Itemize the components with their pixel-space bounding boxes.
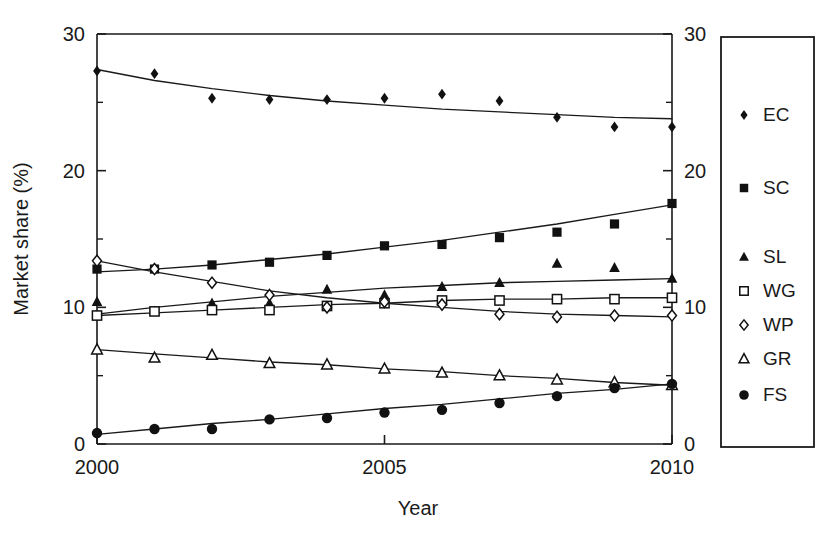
- legend-label: GR: [763, 348, 792, 369]
- data-point-sc: [322, 251, 331, 260]
- y-tick-label-right: 20: [684, 160, 706, 182]
- y-tick-label-right: 0: [684, 433, 695, 455]
- data-point-fs: [207, 424, 217, 434]
- x-tick-label: 2005: [362, 456, 407, 478]
- x-tick-label: 2000: [75, 456, 120, 478]
- data-point-sc: [380, 241, 389, 250]
- legend-label: WG: [763, 280, 796, 301]
- data-point-fs: [609, 383, 619, 393]
- x-tick-label: 2010: [650, 456, 695, 478]
- data-point-fs: [552, 391, 562, 401]
- chart-background: [0, 0, 835, 535]
- data-point-sc: [667, 199, 676, 208]
- data-point-fs: [322, 413, 332, 423]
- legend-marker-filled-circle-icon: [739, 390, 749, 400]
- data-point-fs: [379, 407, 389, 417]
- data-point-wg: [495, 296, 504, 305]
- data-point-fs: [149, 424, 159, 434]
- data-point-sc: [265, 258, 274, 267]
- data-point-sc: [495, 233, 504, 242]
- legend-label: SC: [763, 177, 789, 198]
- y-tick-label-left: 20: [63, 160, 85, 182]
- data-point-wg: [265, 305, 274, 314]
- data-point-sc: [437, 240, 446, 249]
- chart-figure: 0102030 0102030 200020052010 Year Market…: [0, 0, 835, 535]
- legend-label: EC: [763, 104, 789, 125]
- y-tick-label-right: 30: [684, 23, 706, 45]
- y-tick-label-left: 0: [74, 433, 85, 455]
- legend-label: FS: [763, 384, 787, 405]
- data-point-wg: [552, 295, 561, 304]
- data-point-sc: [552, 228, 561, 237]
- data-point-wg: [207, 305, 216, 314]
- legend-label: WP: [763, 314, 794, 335]
- x-axis-title: Year: [398, 497, 439, 519]
- data-point-wg: [92, 311, 101, 320]
- data-point-fs: [264, 414, 274, 424]
- market-share-line-chart: 0102030 0102030 200020052010 Year Market…: [0, 0, 835, 535]
- data-point-wg: [150, 307, 159, 316]
- data-point-fs: [437, 405, 447, 415]
- y-tick-label-right: 10: [684, 296, 706, 318]
- data-point-fs: [494, 398, 504, 408]
- data-point-sc: [610, 219, 619, 228]
- legend-label: SL: [763, 246, 786, 267]
- legend-marker-filled-square-icon: [740, 184, 748, 192]
- data-point-fs: [92, 428, 102, 438]
- y-axis-title: Market share (%): [10, 162, 32, 315]
- data-point-wg: [667, 293, 676, 302]
- y-tick-label-left: 10: [63, 296, 85, 318]
- legend-marker-open-square-icon: [740, 287, 748, 295]
- y-tick-label-left: 30: [63, 23, 85, 45]
- data-point-wg: [610, 295, 619, 304]
- data-point-sc: [207, 260, 216, 269]
- data-point-fs: [667, 379, 677, 389]
